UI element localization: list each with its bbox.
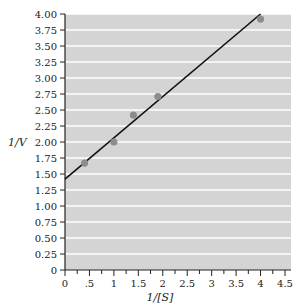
- x-tick-label: 0: [62, 278, 68, 289]
- y-tick-label: 2.00: [35, 137, 57, 148]
- y-tick-label: 1.25: [35, 185, 57, 196]
- y-tick-label: 1.00: [35, 201, 57, 212]
- y-tick-label: 4.00: [35, 9, 57, 20]
- data-point: [154, 93, 161, 100]
- y-tick-label: 3.25: [35, 57, 57, 68]
- x-tick-label: 3.5: [228, 278, 244, 289]
- y-tick-label: 1.50: [35, 169, 57, 180]
- data-point: [257, 16, 264, 23]
- y-tick-label: 2.25: [35, 121, 57, 132]
- y-tick-label: 2.50: [35, 105, 57, 116]
- y-axis-title: 1/V: [8, 136, 28, 149]
- lineweaver-burk-chart: 00.250.500.751.001.251.501.752.002.252.5…: [0, 0, 297, 308]
- x-tick-label: 3: [208, 278, 214, 289]
- data-point: [130, 112, 137, 119]
- y-tick-label: 1.75: [35, 153, 57, 164]
- data-point: [110, 138, 117, 145]
- y-tick-label: 0.75: [35, 217, 57, 228]
- y-tick-label: 3.50: [35, 41, 57, 52]
- y-tick-label: 3.75: [35, 25, 57, 36]
- y-tick-label: 2.75: [35, 89, 57, 100]
- y-tick-label: 0.50: [35, 233, 57, 244]
- y-tick-labels: 00.250.500.751.001.251.501.752.002.252.5…: [35, 9, 57, 276]
- x-tick-label: 1.5: [130, 278, 146, 289]
- x-tick-labels: 0.511.522.533.544.5: [62, 278, 293, 289]
- x-tick-label: 4: [257, 278, 263, 289]
- x-tick-label: .5: [85, 278, 95, 289]
- y-tick-label: 3.00: [35, 73, 57, 84]
- y-tick-label: 0.25: [35, 249, 57, 260]
- data-point: [81, 160, 88, 167]
- x-tick-label: 1: [111, 278, 117, 289]
- x-tick-label: 2.5: [179, 278, 195, 289]
- x-tick-label: 2: [160, 278, 166, 289]
- y-tick-label: 0: [51, 265, 57, 276]
- x-axis-title: 1/[S]: [147, 291, 175, 304]
- x-tick-label: 4.5: [277, 278, 293, 289]
